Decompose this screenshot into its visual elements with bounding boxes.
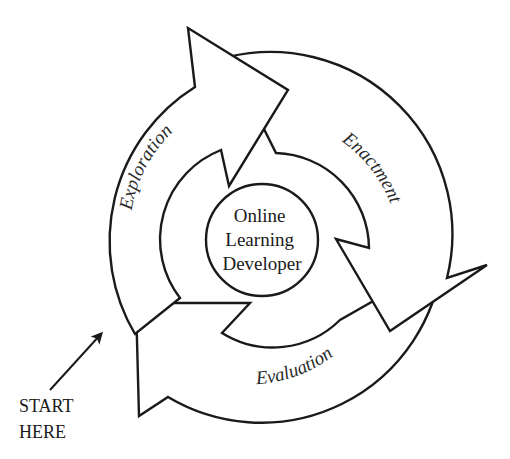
start-pointer-arrow <box>50 334 101 390</box>
center-line-1: Online <box>234 205 286 226</box>
cycle-diagram: Online Learning Developer Exploration En… <box>0 0 510 459</box>
center-line-2: Learning <box>225 229 294 250</box>
center-line-3: Developer <box>222 253 302 274</box>
start-here-label: START HERE <box>19 396 78 442</box>
